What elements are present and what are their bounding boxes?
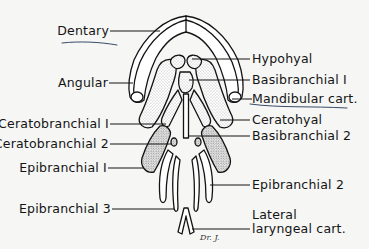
label-lateral: Lateral [252,208,297,222]
label-angular: Angular [58,76,108,90]
label-ceratohyal: Ceratohyal [252,113,322,127]
label-basibranchial-2: Basibranchial 2 [252,129,351,143]
label-hypohyal: Hypohyal [252,52,312,66]
label-basibranchial-1: Basibranchial I [252,73,347,87]
label-dentary: Dentary [57,24,109,38]
label-mandibular-cart: Mandibular cart. [252,92,358,106]
epibranchial-3-right [192,156,199,211]
artist-signature: Dr. J. [199,233,220,242]
lateral-laryngeal-cart [178,208,194,234]
basibranchial-2 [184,94,189,138]
ceratobranchial-2-left [171,138,177,146]
dentary-underline [62,42,117,45]
hypohyal-right [187,55,201,68]
basibranchial-1 [179,72,193,93]
label-epibranchial-3: Epibranchial 3 [19,202,111,216]
hypohyal-left [171,55,185,68]
diagram-canvas: Dr. J. Dentary Angular Ceratobranchial I… [0,0,369,249]
label-ceratobranchial-1: Ceratobranchial I [0,117,109,131]
label-laryngeal-cart: laryngeal cart. [252,222,346,236]
label-epibranchial-2: Epibranchial 2 [252,178,344,192]
label-ceratobranchial-2: Ceratobranchial 2 [0,137,109,151]
label-epibranchial-1: Epibranchial I [19,161,107,175]
ceratobranchial-2-right [195,138,201,146]
epibranchial-3-left [173,156,180,211]
